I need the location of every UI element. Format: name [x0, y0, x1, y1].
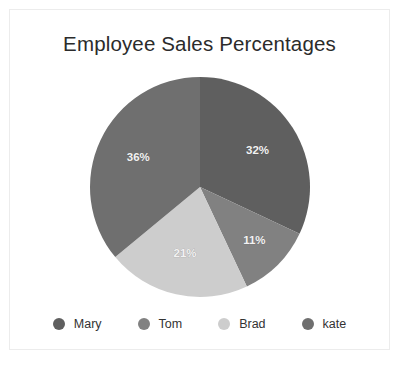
- legend-item-kate[interactable]: kate: [302, 317, 347, 331]
- legend-swatch-icon: [302, 318, 314, 330]
- pie-slice-group: [89, 77, 309, 297]
- chart-title: Employee Sales Percentages: [10, 32, 389, 56]
- legend-item-tom[interactable]: Tom: [138, 317, 183, 331]
- pie-slice-label-mary: 32%: [246, 144, 269, 156]
- legend-label: kate: [323, 317, 347, 331]
- legend-item-mary[interactable]: Mary: [53, 317, 102, 331]
- chart-legend: MaryTomBradkate: [10, 317, 389, 331]
- pie-chart-area: 32%11%21%36%: [10, 76, 389, 298]
- legend-label: Brad: [239, 317, 265, 331]
- legend-item-brad[interactable]: Brad: [218, 317, 265, 331]
- pie-slice-label-brad: 21%: [173, 247, 196, 259]
- chart-card: Employee Sales Percentages 32%11%21%36% …: [9, 9, 390, 350]
- legend-swatch-icon: [138, 318, 150, 330]
- legend-swatch-icon: [218, 318, 230, 330]
- pie-slice-label-kate: 36%: [126, 151, 149, 163]
- pie-chart-svg: 32%11%21%36%: [89, 76, 311, 298]
- legend-label: Tom: [159, 317, 183, 331]
- pie-slice-label-tom: 11%: [243, 234, 265, 246]
- legend-swatch-icon: [53, 318, 65, 330]
- legend-label: Mary: [74, 317, 102, 331]
